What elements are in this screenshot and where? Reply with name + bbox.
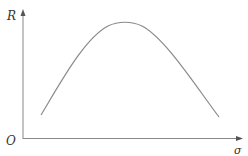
bell-curve (41, 22, 219, 117)
x-axis-label: σ (234, 144, 242, 156)
y-axis-arrow-icon (21, 9, 26, 16)
x-axis-arrow-icon (236, 136, 243, 141)
diagram-canvas: R O σ (0, 0, 248, 156)
origin-label: O (6, 134, 16, 148)
y-axis-label: R (6, 9, 16, 23)
